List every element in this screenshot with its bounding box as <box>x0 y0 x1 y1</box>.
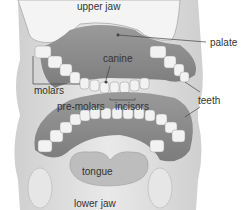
teeth-diagram: upper jaw palate canine molars pre-molar… <box>0 0 247 210</box>
label-lower-jaw: lower jaw <box>74 199 116 209</box>
label-pre-molars: pre-molars <box>57 102 105 112</box>
label-canine: canine <box>103 54 132 64</box>
label-incisors: incisors <box>115 102 149 112</box>
label-tongue: tongue <box>82 167 113 177</box>
label-upper-jaw: upper jaw <box>77 2 120 12</box>
label-molars: molars <box>34 86 64 96</box>
label-teeth: teeth <box>198 96 220 106</box>
label-palate: palate <box>210 38 237 48</box>
